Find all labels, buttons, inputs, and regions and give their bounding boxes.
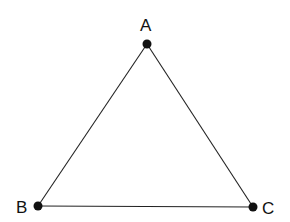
vertex-a-dot	[143, 40, 152, 49]
edge-ca	[147, 44, 253, 207]
vertex-c-dot	[249, 203, 258, 212]
triangle-diagram: A B C	[0, 0, 290, 222]
vertex-c-label: C	[262, 199, 274, 218]
vertex-b-label: B	[16, 198, 27, 217]
vertex-a-label: A	[140, 16, 152, 35]
vertex-b-dot	[34, 202, 43, 211]
diagram-svg: A B C	[0, 0, 290, 222]
edge-bc	[38, 206, 253, 207]
edge-ab	[38, 44, 147, 206]
